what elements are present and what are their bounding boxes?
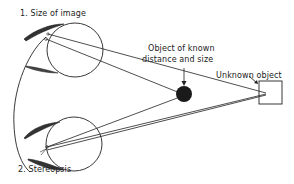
known-object-circle <box>176 86 192 102</box>
unknown-object-box <box>259 81 282 104</box>
top-eye <box>24 23 103 77</box>
label-known-object-line2: distance and size <box>142 55 213 64</box>
label-unknown-object: Unknown object <box>216 71 282 80</box>
label-known-object-line1: Object of known <box>148 44 215 53</box>
label-size-of-image: 1. Size of image <box>20 9 86 18</box>
depth-perception-diagram <box>0 0 294 184</box>
label-stereopsis: 2. Stereopsis <box>18 165 71 174</box>
bottom-eye <box>24 117 102 171</box>
stereopsis-pointer-icon <box>40 149 46 155</box>
